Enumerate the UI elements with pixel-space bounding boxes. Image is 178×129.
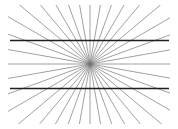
illusion-canvas [0,0,178,129]
hering-illusion-figure [0,0,178,129]
